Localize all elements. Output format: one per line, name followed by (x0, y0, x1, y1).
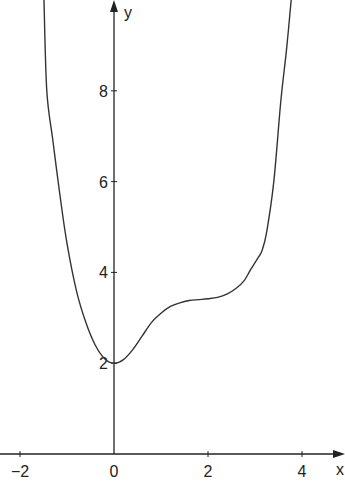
y-tick-label: 6 (99, 174, 108, 191)
x-axis-label: x (336, 461, 344, 478)
x-tick-label: −2 (11, 463, 29, 480)
y-axis-label: y (124, 4, 132, 21)
y-tick-label: 8 (99, 83, 108, 100)
y-tick-label: 4 (99, 264, 108, 281)
function-curve (44, 0, 291, 363)
function-plot: xy−20242468 (0, 0, 345, 497)
x-tick-label: 4 (298, 463, 307, 480)
x-tick-label: 0 (110, 463, 119, 480)
y-axis-arrow (110, 0, 118, 12)
x-axis-arrow (333, 450, 345, 458)
x-tick-label: 2 (204, 463, 213, 480)
